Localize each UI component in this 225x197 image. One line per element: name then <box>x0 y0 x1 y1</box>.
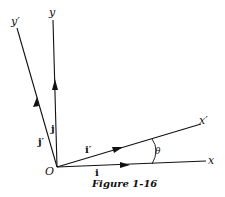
y-axis-label: y <box>48 6 56 19</box>
y-prime-axis-label: y′ <box>10 15 20 28</box>
j-prime-vector-label: j′ <box>37 136 45 147</box>
i-prime-vector-label: i′ <box>85 144 92 155</box>
rotated-axes-diagram: y y′ x x′ j j′ i′ i θ O Figure 1-16 <box>0 0 225 197</box>
j-arrowhead-icon <box>52 79 58 90</box>
figure-caption: Figure 1-16 <box>91 178 157 189</box>
origin-label: O <box>45 165 54 178</box>
x-axis <box>57 161 206 167</box>
i-arrowhead-icon <box>120 162 130 168</box>
y-axis <box>53 20 57 167</box>
x-prime-axis <box>57 124 201 167</box>
j-vector-label: j <box>50 123 55 134</box>
i-prime-arrowhead-icon <box>112 147 123 153</box>
x-prime-axis-label: x′ <box>199 114 208 127</box>
x-axis-label: x <box>208 154 215 167</box>
j-prime-arrowhead-icon <box>33 97 39 107</box>
theta-label: θ <box>155 146 161 156</box>
i-vector-label: i <box>95 167 99 178</box>
